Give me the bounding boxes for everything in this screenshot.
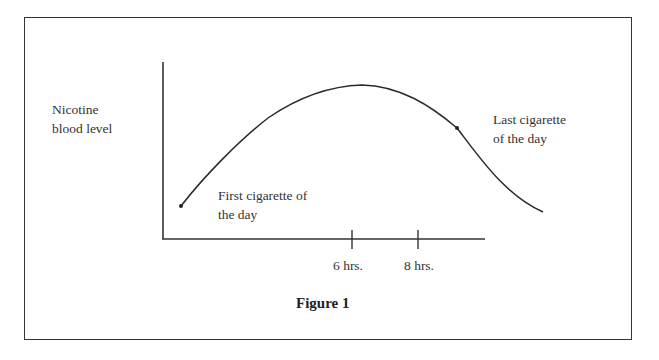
first-cigarette-marker [179, 204, 183, 208]
last-cigarette-line1: Last cigarette [493, 110, 566, 129]
first-cigarette-annotation: First cigarette of the day [218, 186, 307, 224]
first-cigarette-line2: the day [218, 205, 307, 224]
x-tick-label-6hrs: 6 hrs. [333, 256, 363, 275]
first-cigarette-line1: First cigarette of [218, 186, 307, 205]
figure-caption: Figure 1 [296, 295, 349, 312]
y-axis-label-line1: Nicotine [52, 100, 112, 119]
x-tick-label-8hrs: 8 hrs. [404, 256, 434, 275]
last-cigarette-annotation: Last cigarette of the day [493, 110, 566, 148]
y-axis-label: Nicotine blood level [52, 100, 112, 138]
y-axis-label-line2: blood level [52, 119, 112, 138]
last-cigarette-line2: of the day [493, 129, 566, 148]
last-cigarette-marker [455, 126, 459, 130]
